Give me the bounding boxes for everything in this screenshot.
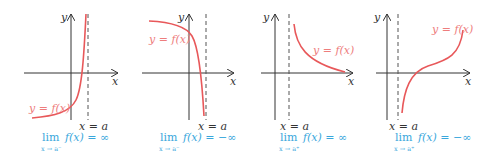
panel-3: y x y = f(x) x = a lim x → a⁺ f(x) = ∞ xyxy=(261,11,355,153)
y-axis-label: y xyxy=(60,11,68,24)
function-label: y = f(x) xyxy=(28,102,70,115)
limit-lim: lim xyxy=(280,131,298,144)
y-axis-label: y xyxy=(373,11,381,24)
y-axis-label: y xyxy=(262,11,270,24)
panel-4: y x y = f(x) x = a lim x → a⁺ f(x) = −∞ xyxy=(373,11,473,153)
y-axis-label: y xyxy=(177,11,185,24)
function-label: y = f(x) xyxy=(431,23,473,36)
x-axis-label: x xyxy=(465,75,472,88)
limit-lim: lim xyxy=(395,131,413,144)
limit-expression: f(x) = ∞ xyxy=(302,131,347,144)
x-axis-label: x xyxy=(112,75,119,88)
function-label: y = f(x) xyxy=(312,44,354,57)
limit-lim: lim xyxy=(160,131,178,144)
limit-subscript: x → a⁻ xyxy=(41,145,62,153)
limit-subscript: x → a⁺ xyxy=(279,145,300,153)
function-label: y = f(x) xyxy=(148,33,190,46)
x-axis-label: x xyxy=(348,75,355,88)
function-curve xyxy=(402,30,463,113)
x-axis-label: x xyxy=(230,75,237,88)
limit-expression: f(x) = ∞ xyxy=(64,131,109,144)
limit-subscript: x → a⁺ xyxy=(394,145,415,153)
limit-expression: f(x) = −∞ xyxy=(417,131,471,144)
infinite-limits-figure: y x y = f(x) x = a lim x → a⁻ f(x) = ∞ y… xyxy=(0,0,494,158)
limit-expression: f(x) = −∞ xyxy=(182,131,236,144)
limit-lim: lim xyxy=(42,131,60,144)
limit-subscript: x → a⁻ xyxy=(159,145,180,153)
panel-2: y x y = f(x) x = a lim x → a⁻ f(x) = −∞ xyxy=(142,11,237,153)
panel-1: y x y = f(x) x = a lim x → a⁻ f(x) = ∞ xyxy=(24,11,119,153)
